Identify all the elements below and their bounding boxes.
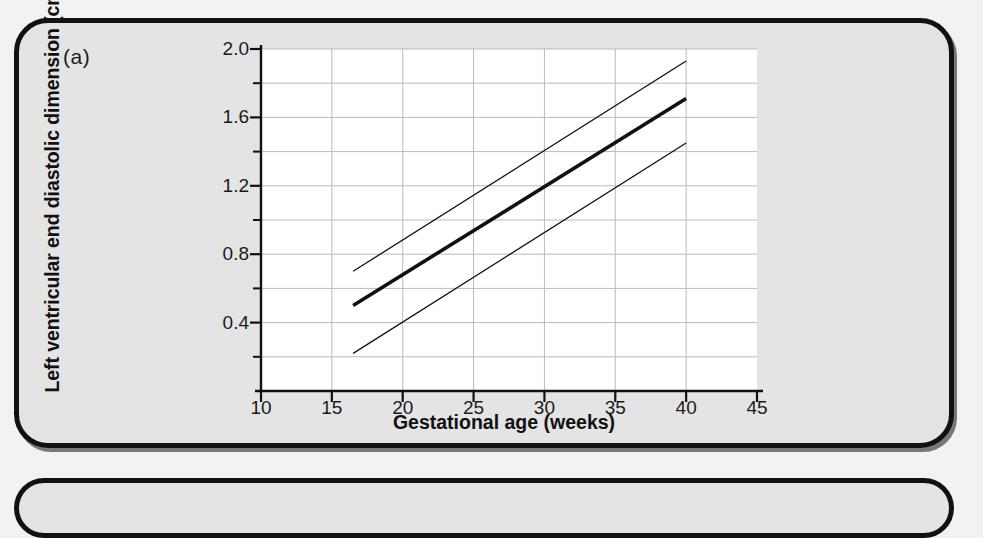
plot-area (19, 23, 959, 443)
figure-panel-b (14, 478, 954, 538)
figure-panel-a: (a) Left ventricular end diastolic dimen… (14, 18, 954, 448)
line-chart: Left ventricular end diastolic dimension… (19, 23, 959, 443)
